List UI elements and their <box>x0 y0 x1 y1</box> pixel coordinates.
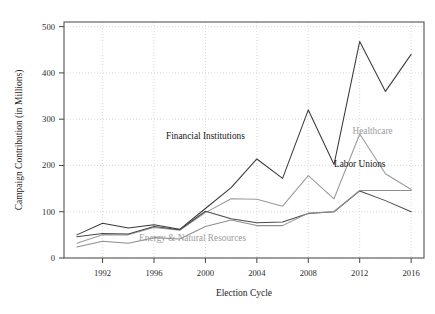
campaign-contribution-line-chart: 0100200300400500 19921996200020042008201… <box>0 0 435 314</box>
series-label: Energy & Natural Resources <box>139 233 246 243</box>
x-tick-label: 2012 <box>351 268 368 278</box>
series-label: Financial Institutions <box>166 131 245 141</box>
xtick-label-layer: 1992199620002004200820122016 <box>94 268 420 278</box>
series-layer <box>77 41 411 246</box>
y-tick-label: 500 <box>42 22 55 32</box>
x-tick-label: 2008 <box>300 268 317 278</box>
chart-canvas: 0100200300400500 19921996200020042008201… <box>0 0 435 314</box>
y-tick-label: 400 <box>42 68 55 78</box>
tickmark-layer <box>59 27 411 263</box>
y-axis-title: Campaign Contribution (in Millions) <box>14 70 25 211</box>
series-label: Healthcare <box>352 126 392 136</box>
x-tick-label: 2004 <box>248 268 266 278</box>
series-line <box>77 191 411 237</box>
series-line <box>77 134 411 243</box>
y-tick-label: 0 <box>51 253 55 263</box>
ytick-label-layer: 0100200300400500 <box>42 22 55 263</box>
y-tick-label: 100 <box>42 207 55 217</box>
x-tick-label: 2016 <box>403 268 421 278</box>
series-label: Labor Unions <box>334 159 386 169</box>
x-tick-label: 1996 <box>145 268 163 278</box>
x-axis-title: Election Cycle <box>216 288 272 298</box>
y-tick-label: 300 <box>42 114 55 124</box>
y-tick-label: 200 <box>42 160 55 170</box>
x-tick-label: 2000 <box>197 268 214 278</box>
x-tick-label: 1992 <box>94 268 111 278</box>
